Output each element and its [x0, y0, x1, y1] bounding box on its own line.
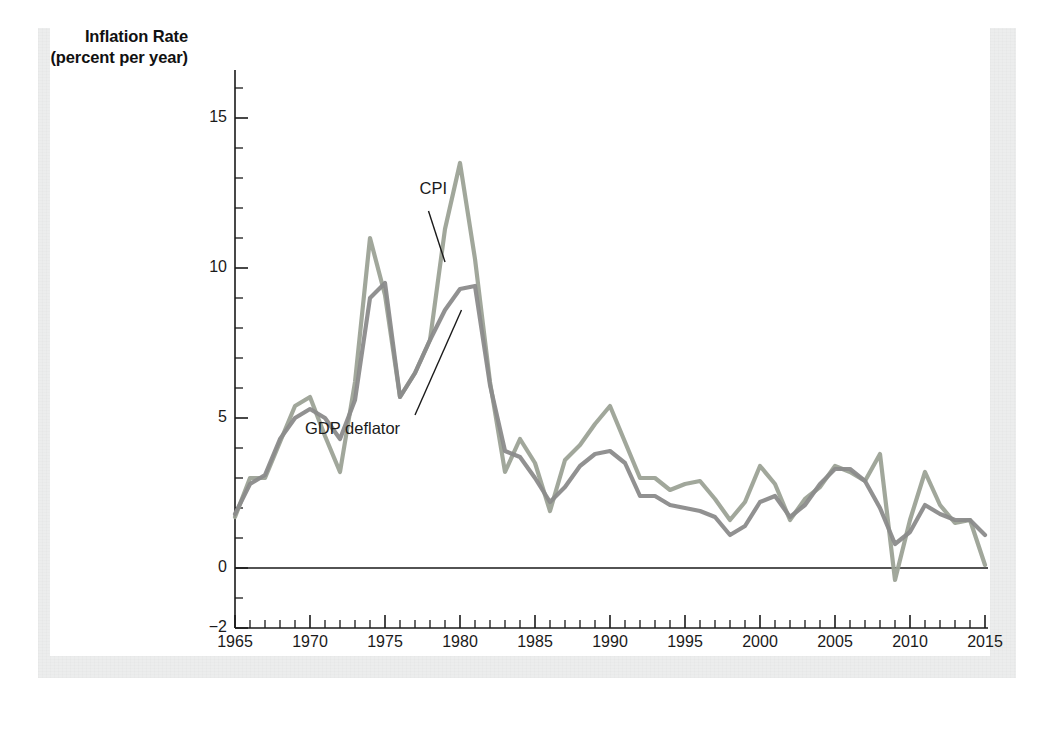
x-tick-label: 2005 — [805, 633, 865, 651]
y-tick-label: 0 — [181, 558, 227, 576]
series-line-cpi — [235, 163, 985, 580]
x-tick-label: 1970 — [280, 633, 340, 651]
x-tick-label: 2000 — [730, 633, 790, 651]
y-tick-label: 5 — [181, 408, 227, 426]
x-tick-label: 1980 — [430, 633, 490, 651]
screenshot-root: nt of 1 n t 1 ct t r tand f rm n n flat … — [0, 0, 1048, 734]
plot-area: 151050−219651970197519801985199019952000… — [0, 0, 1048, 734]
gdp-deflator-label: GDP deflator — [305, 419, 400, 438]
series-line-gdp-deflator — [235, 283, 985, 544]
cpi-label: CPI — [420, 179, 448, 198]
x-tick-label: 2015 — [955, 633, 1015, 651]
x-tick-label: 1975 — [355, 633, 415, 651]
x-tick-label: 1990 — [580, 633, 640, 651]
x-tick-label: 1995 — [655, 633, 715, 651]
line-chart-svg — [0, 0, 1048, 734]
x-tick-label: 1965 — [205, 633, 265, 651]
y-tick-label: 15 — [181, 108, 227, 126]
x-tick-label: 1985 — [505, 633, 565, 651]
y-tick-label: 10 — [181, 258, 227, 276]
x-tick-label: 2010 — [880, 633, 940, 651]
